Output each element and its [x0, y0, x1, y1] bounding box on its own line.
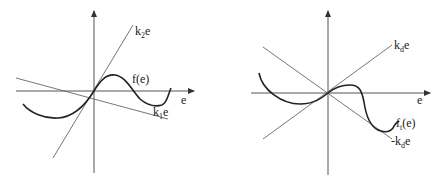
right-kde-label: kde — [394, 38, 409, 54]
right-neg-kde-label: -kde — [391, 134, 410, 150]
sector-diagrams: k2e f(e) e k1e kde e ft(e) -kde — [0, 0, 442, 183]
left-k1e-label: k1e — [153, 105, 168, 121]
right-panel: kde e ft(e) -kde — [251, 11, 430, 175]
right-ft-curve — [259, 73, 399, 132]
right-ft-label: ft(e) — [396, 116, 416, 132]
left-panel: k2e f(e) e k1e — [16, 11, 194, 173]
right-e-label: e — [417, 93, 422, 107]
left-k2e-label: k2e — [135, 24, 150, 40]
left-fe-label: f(e) — [132, 72, 149, 86]
left-e-label: e — [181, 93, 186, 107]
